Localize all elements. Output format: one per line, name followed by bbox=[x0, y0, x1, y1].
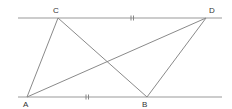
geometry-diagram: C D A B bbox=[0, 0, 232, 109]
diagram-svg: C D A B bbox=[0, 0, 232, 109]
point-label-d: D bbox=[209, 6, 215, 15]
segment-db bbox=[147, 18, 206, 97]
point-label-b: B bbox=[142, 100, 147, 109]
point-label-a: A bbox=[23, 100, 29, 109]
segment-cb bbox=[58, 18, 147, 97]
point-label-c: C bbox=[53, 6, 59, 15]
